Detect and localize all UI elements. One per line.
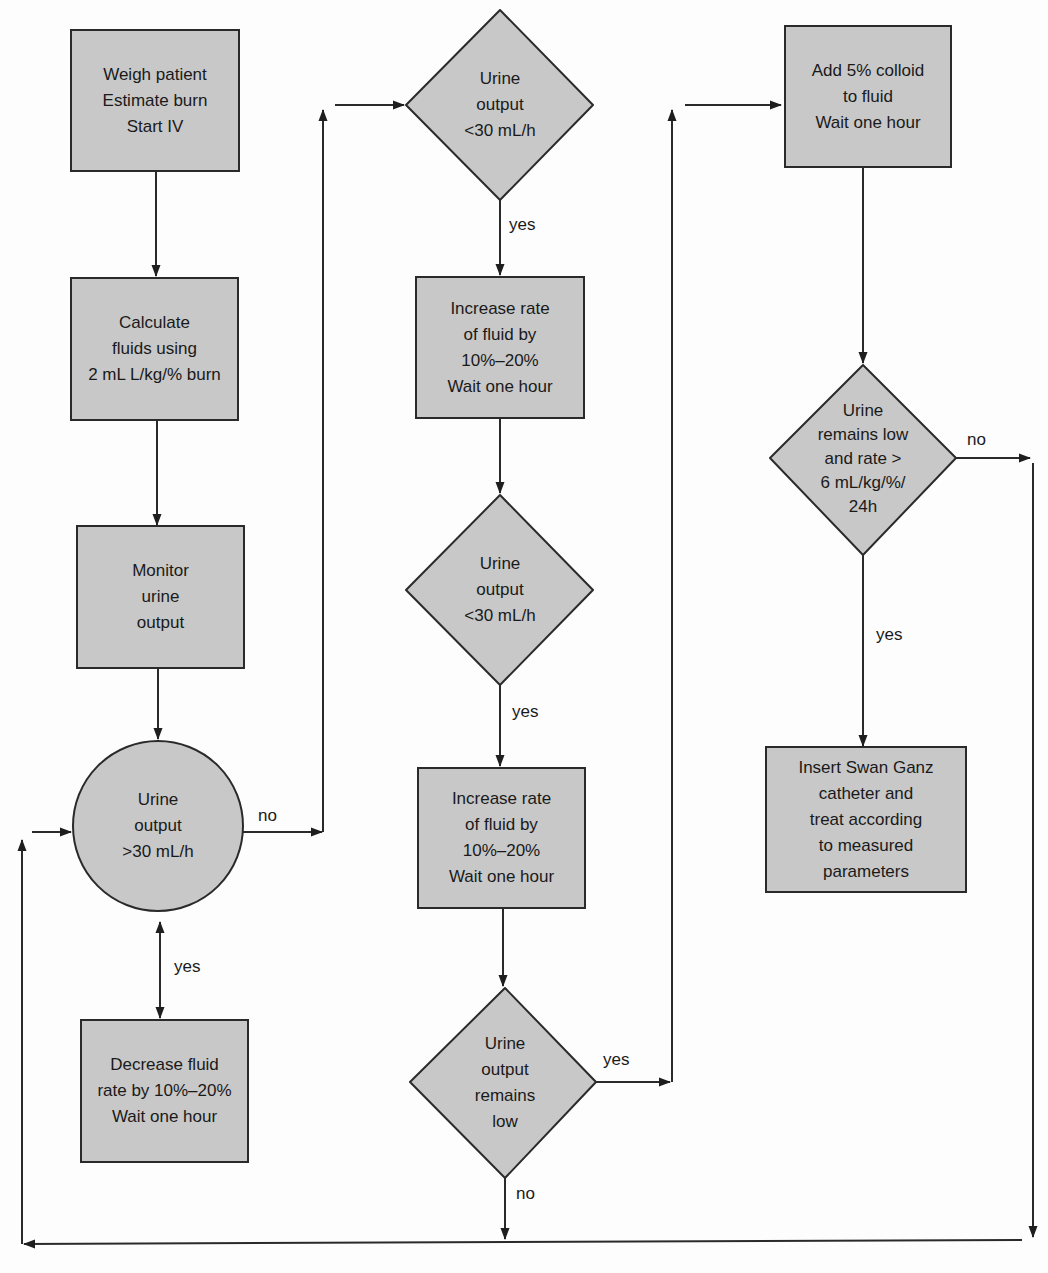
step-monitor-urine: Monitor urine output xyxy=(76,525,245,669)
edge-label-remains-low-yes: yes xyxy=(603,1050,629,1070)
decision-lt30-a-text: Urine output <30 mL/h xyxy=(464,66,535,144)
decision-lt30-b-label: Urine output <30 mL/h xyxy=(420,515,580,665)
edge-label-remains-low-no: no xyxy=(516,1184,535,1204)
step-insert-swan-ganz: Insert Swan Ganz catheter and treat acco… xyxy=(765,746,967,893)
decision-gt30-text: Urine output >30 mL/h xyxy=(122,787,193,865)
edge-label-low-rate-yes: yes xyxy=(876,625,902,645)
step-increase-rate-a: Increase rate of fluid by 10%–20% Wait o… xyxy=(415,276,585,419)
step-insert-swan-ganz-text: Insert Swan Ganz catheter and treat acco… xyxy=(798,755,933,885)
decision-remains-low-label: Urine output remains low xyxy=(425,1005,585,1160)
edge-label-gt30-no: no xyxy=(258,806,277,826)
edge-label-lt30b-yes: yes xyxy=(512,702,538,722)
step-add-colloid: Add 5% colloid to fluid Wait one hour xyxy=(784,25,952,168)
decision-low-and-rate-label: Urine remains low and rate > 6 mL/kg/%/ … xyxy=(783,383,943,535)
step-weigh-patient-text: Weigh patient Estimate burn Start IV xyxy=(103,62,208,140)
step-weigh-patient: Weigh patient Estimate burn Start IV xyxy=(70,29,240,172)
edge-label-low-rate-no: no xyxy=(967,430,986,450)
step-increase-rate-b-text: Increase rate of fluid by 10%–20% Wait o… xyxy=(449,786,554,890)
step-increase-rate-a-text: Increase rate of fluid by 10%–20% Wait o… xyxy=(447,296,552,400)
step-decrease-fluid-text: Decrease fluid rate by 10%–20% Wait one … xyxy=(97,1052,231,1130)
edge-label-gt30-yes: yes xyxy=(174,957,200,977)
step-increase-rate-b: Increase rate of fluid by 10%–20% Wait o… xyxy=(417,767,586,909)
step-decrease-fluid: Decrease fluid rate by 10%–20% Wait one … xyxy=(80,1019,249,1163)
flowchart-canvas: Weigh patient Estimate burn Start IV Cal… xyxy=(0,0,1048,1273)
decision-gt30-label: Urine output >30 mL/h xyxy=(73,741,243,911)
step-calculate-fluids-text: Calculate fluids using 2 mL L/kg/% burn xyxy=(88,310,221,388)
decision-low-and-rate-text: Urine remains low and rate > 6 mL/kg/%/ … xyxy=(818,399,909,519)
step-monitor-urine-text: Monitor urine output xyxy=(132,558,189,636)
decision-remains-low-text: Urine output remains low xyxy=(475,1031,535,1135)
decision-lt30-a-label: Urine output <30 mL/h xyxy=(420,30,580,180)
decision-lt30-b-text: Urine output <30 mL/h xyxy=(464,551,535,629)
step-calculate-fluids: Calculate fluids using 2 mL L/kg/% burn xyxy=(70,277,239,421)
edge-label-lt30a-yes: yes xyxy=(509,215,535,235)
step-add-colloid-text: Add 5% colloid to fluid Wait one hour xyxy=(812,58,924,136)
